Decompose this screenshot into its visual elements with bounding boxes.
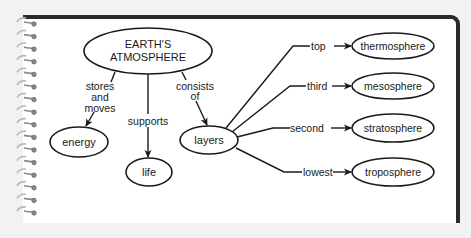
thermosphere-label: thermosphere [361, 40, 426, 52]
link-label-of: of [191, 90, 200, 102]
energy-label: energy [62, 136, 96, 148]
root-label-line1: EARTH'S [125, 38, 172, 50]
life-label: life [142, 166, 156, 178]
root-label-line2: ATMOSPHERE [110, 51, 186, 63]
link-label-third: third [307, 80, 328, 92]
link-label-supports: supports [128, 115, 168, 127]
stratosphere-label: stratosphere [364, 122, 423, 134]
link-label-second: second [290, 122, 324, 134]
spiral-binding-icon [17, 18, 36, 215]
mesosphere-label: mesosphere [364, 80, 422, 92]
notebook-diagram: EARTH'S ATMOSPHERE energy life layers th… [0, 0, 471, 238]
link-label-lowest: lowest [303, 166, 333, 178]
link-label-top: top [311, 40, 326, 52]
link-label-moves: moves [85, 102, 116, 114]
troposphere-label: troposphere [365, 166, 421, 178]
layers-label: layers [194, 134, 224, 146]
concept-map: EARTH'S ATMOSPHERE energy life layers th… [0, 0, 471, 238]
